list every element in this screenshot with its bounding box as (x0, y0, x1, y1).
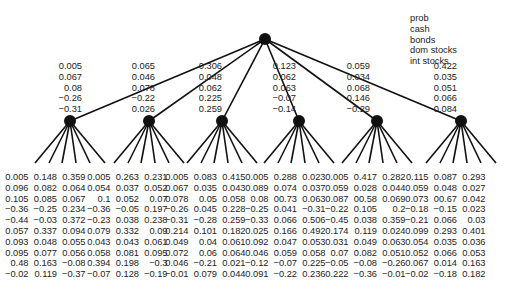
leaf-value: 0.092 (240, 237, 269, 248)
leaf-value: 0.066 (269, 215, 298, 226)
leaf-value: 0.074 (269, 183, 298, 194)
leaf-value: 0.263 (111, 172, 140, 183)
leaf-value: 0.166 (269, 226, 298, 237)
leaf-row-dom: 0.3940.198−0.3 (82, 258, 168, 269)
leaf-value: 0.293 (457, 172, 486, 183)
leaf-value: 0.105 (0, 194, 29, 205)
stage1-bonds-value: 0.068 (330, 83, 370, 94)
leaf-value: 0.48 (0, 258, 29, 269)
leaf-value: −0.22 (269, 269, 298, 280)
leaf-value: −0.31 (160, 215, 189, 226)
stage1-int-value: 0.084 (417, 104, 457, 115)
leaf-group-3-bottom: 0.2140.1010.1820.0490.040.0610.0720.060.… (160, 226, 246, 280)
stage1-cash-value: 0.062 (256, 72, 296, 83)
leaf-value: −0.05 (111, 204, 140, 215)
stage1-cash-value: 0.034 (330, 72, 370, 83)
leaf-row-cash: 0.0540.0370.052 (82, 183, 168, 194)
leaf-row-bonds: 0.0580.0810.095 (82, 248, 168, 259)
leaf-value: 0.288 (269, 172, 298, 183)
leaf-value: 0.119 (29, 269, 58, 280)
leaf-value: −0.07 (269, 258, 298, 269)
leaf-value: 0.07 (320, 248, 349, 259)
leaf-row-int: −0.010.0790.044 (160, 269, 246, 280)
stage1-prob-value: 0.065 (115, 61, 155, 72)
leaf-value: 0.115 (400, 172, 429, 183)
leaf-value: 0.099 (400, 226, 429, 237)
leaf-group-2-top: 0.0050.2630.2310.0540.0370.0520.10.0520.… (82, 172, 168, 226)
leaf-row-cash: 0.0920.0470.053 (240, 237, 326, 248)
leaf-value: 0.079 (189, 269, 218, 280)
leaf-row-prob: 0.0050.4170.282 (320, 172, 406, 183)
leaf-row-cash: 0.0310.0490.063 (320, 237, 406, 248)
leaf-row-prob: 0.1150.0870.293 (400, 172, 486, 183)
leaf-value: 0.1 (82, 194, 111, 205)
leaf-value: −0.07 (82, 269, 111, 280)
leaf-value: 0.048 (29, 237, 58, 248)
stage1-dom-value: 0.225 (182, 93, 222, 104)
leaf-value: −0.36 (82, 204, 111, 215)
leaf-value: 0.128 (111, 269, 140, 280)
leaf-value: −0.15 (429, 204, 458, 215)
leaf-value: 0.082 (349, 248, 378, 259)
leaf-value: −0.33 (240, 215, 269, 226)
leaf-value: 0.066 (429, 248, 458, 259)
stage1-int-value: 0.026 (115, 104, 155, 115)
stage1-bonds-value: 0.078 (115, 83, 155, 94)
leaf-row-prob: 0.2140.1010.182 (160, 226, 246, 237)
leaf-group-6-bottom: 0.0990.2930.4010.0540.0350.0360.0520.066… (400, 226, 486, 280)
stage1-label-5: 0.0590.0340.0680.146−0.29 (330, 61, 370, 115)
leaf-value: 0.005 (0, 172, 29, 183)
leaf-value: 0.05 (189, 194, 218, 205)
leaf-value: 0.03 (457, 215, 486, 226)
stage1-node-2 (143, 115, 155, 127)
stage1-int-value: 0.259 (182, 104, 222, 115)
leaf-value: 0.023 (457, 204, 486, 215)
leaf-value: 0.093 (0, 237, 29, 248)
leaf-value: 0.045 (189, 204, 218, 215)
leaf-value: −0.21 (400, 215, 429, 226)
leaf-value: −0.03 (29, 215, 58, 226)
leaf-value: 0.337 (29, 226, 58, 237)
legend-prob: prob (410, 13, 457, 24)
leaf-value: −0.22 (320, 204, 349, 215)
leaf-value: 0.005 (240, 172, 269, 183)
leaf-value: 0.043 (111, 237, 140, 248)
leaf-value: 0.085 (29, 194, 58, 205)
leaf-value: −0.28 (189, 215, 218, 226)
leaf-row-prob: 0.1740.1190.024 (320, 226, 406, 237)
stage1-bonds-value: 0.051 (417, 83, 457, 94)
leaf-row-prob: 0.0050.2630.231 (82, 172, 168, 183)
leaf-value: 0.293 (429, 226, 458, 237)
stage1-dom-value: −0.07 (256, 93, 296, 104)
stage1-int-value: −0.31 (42, 104, 82, 115)
leaf-row-dom: −0.220.1050.2 (320, 204, 406, 215)
leaf-row-int: −0.230.0380.238 (82, 215, 168, 226)
leaf-value: 0.046 (240, 248, 269, 259)
leaf-row-int: −0.02−0.180.182 (400, 269, 486, 280)
leaf-value: 0.052 (111, 194, 140, 205)
leaf-row-bonds: 0.1050.0850.067 (0, 194, 86, 205)
leaf-value: 0.054 (400, 237, 429, 248)
leaf-value: 0.067 (400, 258, 429, 269)
leaf-row-prob: 0.0050.2880.023 (240, 172, 326, 183)
leaf-value: −0.12 (240, 258, 269, 269)
leaf-row-int: −0.44−0.030.372 (0, 215, 86, 226)
leaf-row-bonds: 0.0460.0590.058 (240, 248, 326, 259)
leaf-row-int: −0.31−0.280.259 (160, 215, 246, 226)
leaf-value: 0.014 (429, 258, 458, 269)
leaf-row-int: 0.222−0.36−0.01 (320, 269, 406, 280)
leaf-row-cash: 0.0540.0350.036 (400, 237, 486, 248)
leaf-row-dom: −0.36−0.250.234 (0, 204, 86, 215)
leaf-row-bonds: 0.0720.060.064 (160, 248, 246, 259)
leaf-value: 0.401 (457, 226, 486, 237)
leaf-row-int: −0.070.128−0.19 (82, 269, 168, 280)
leaf-value: 0.028 (349, 183, 378, 194)
leaf-value: 0.222 (320, 269, 349, 280)
leaf-row-int: −0.330.0660.506 (240, 215, 326, 226)
leaf-value: 0.027 (457, 183, 486, 194)
leaf-value: 0.035 (189, 183, 218, 194)
leaf-value: 0.105 (349, 204, 378, 215)
leaf-value: 00.73 (269, 194, 298, 205)
stage1-cash-value: 0.067 (42, 72, 82, 83)
leaf-row-cash: 0.0930.0480.055 (0, 237, 86, 248)
